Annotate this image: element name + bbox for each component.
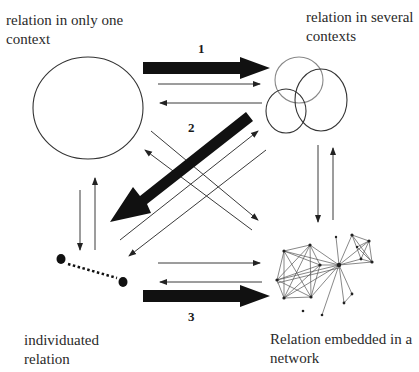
svg-text:individuated: individuated	[24, 332, 99, 348]
svg-text:context: context	[6, 31, 51, 47]
svg-text:3: 3	[188, 309, 195, 324]
network-graph	[275, 233, 373, 316]
thin-arrow-individuated-to-several	[120, 131, 258, 240]
svg-text:relation: relation	[24, 351, 70, 367]
thin-arrow-several-to-individuated	[129, 150, 266, 256]
label-single-context: relation in only one context	[6, 12, 123, 47]
label-individuated: individuated relation	[24, 332, 99, 367]
svg-text:1: 1	[198, 41, 205, 56]
label-several-contexts: relation in several contexts	[306, 9, 413, 44]
svg-text:relation in only one: relation in only one	[6, 12, 123, 28]
individuated-dyad	[57, 254, 128, 287]
single-context-circle	[33, 57, 143, 159]
thick-arrow-1: 1	[143, 41, 270, 79]
label-network: Relation embedded in a network	[270, 331, 412, 366]
svg-text:relation in several: relation in several	[306, 9, 413, 25]
svg-text:Relation embedded in a: Relation embedded in a	[270, 331, 412, 347]
thick-arrow-3: 3	[143, 285, 270, 324]
svg-text:contexts: contexts	[306, 28, 356, 44]
relation-transition-diagram: relation in only one context relation in…	[0, 0, 419, 372]
several-contexts-ellipses	[266, 57, 347, 133]
svg-text:network: network	[270, 350, 320, 366]
thick-arrow-2	[110, 112, 253, 222]
transition-number-2: 2	[188, 120, 195, 135]
